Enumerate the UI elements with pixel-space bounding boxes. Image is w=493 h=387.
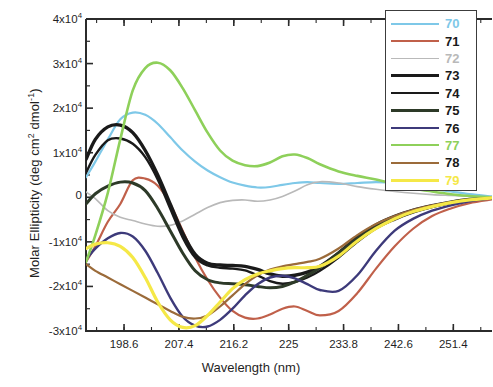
- legend-item-78[interactable]: 78: [391, 154, 473, 171]
- legend-item-71[interactable]: 71: [391, 32, 473, 49]
- legend-swatch-71: [391, 40, 439, 42]
- legend-item-75[interactable]: 75: [391, 102, 473, 119]
- legend-item-76[interactable]: 76: [391, 119, 473, 136]
- legend-swatch-73: [391, 74, 439, 77]
- cd-spectra-chart: Molar Ellipticity (deg cm2 dmol-1) Wavel…: [0, 0, 493, 387]
- legend-swatch-72: [391, 58, 439, 59]
- legend-swatch-78: [391, 162, 439, 164]
- legend-label-70: 70: [445, 17, 459, 30]
- legend-label-76: 76: [445, 122, 459, 135]
- legend-swatch-79: [391, 179, 439, 182]
- legend-swatch-76: [391, 127, 439, 129]
- legend-item-72[interactable]: 72: [391, 50, 473, 67]
- legend-label-73: 73: [445, 69, 459, 82]
- legend-item-77[interactable]: 77: [391, 137, 473, 154]
- legend-swatch-77: [391, 144, 439, 146]
- legend-item-73[interactable]: 73: [391, 67, 473, 84]
- legend-swatch-75: [391, 109, 439, 112]
- legend-label-72: 72: [445, 52, 459, 65]
- legend-swatch-74: [391, 92, 439, 94]
- legend: 70717273747576777879: [385, 10, 477, 191]
- series-line-75: [86, 182, 492, 288]
- legend-swatch-70: [391, 23, 439, 25]
- legend-item-74[interactable]: 74: [391, 85, 473, 102]
- legend-label-78: 78: [445, 156, 459, 169]
- legend-item-79[interactable]: 79: [391, 172, 473, 189]
- legend-label-77: 77: [445, 139, 459, 152]
- legend-item-70[interactable]: 70: [391, 15, 473, 32]
- legend-label-71: 71: [445, 35, 459, 48]
- legend-label-75: 75: [445, 104, 459, 117]
- legend-label-79: 79: [445, 174, 459, 187]
- legend-label-74: 74: [445, 87, 459, 100]
